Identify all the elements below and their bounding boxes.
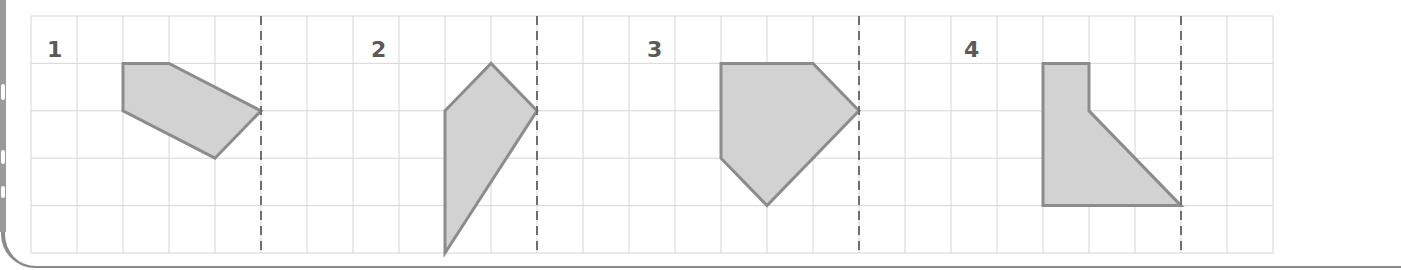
shape-4 (1043, 63, 1181, 205)
shape-1 (123, 63, 261, 158)
exercise-label-2: 2 (371, 38, 386, 62)
exercise-label-3: 3 (647, 38, 662, 62)
shape-3 (721, 63, 859, 205)
exercise-label-4: 4 (964, 38, 979, 62)
exercise-label-1: 1 (47, 38, 62, 62)
